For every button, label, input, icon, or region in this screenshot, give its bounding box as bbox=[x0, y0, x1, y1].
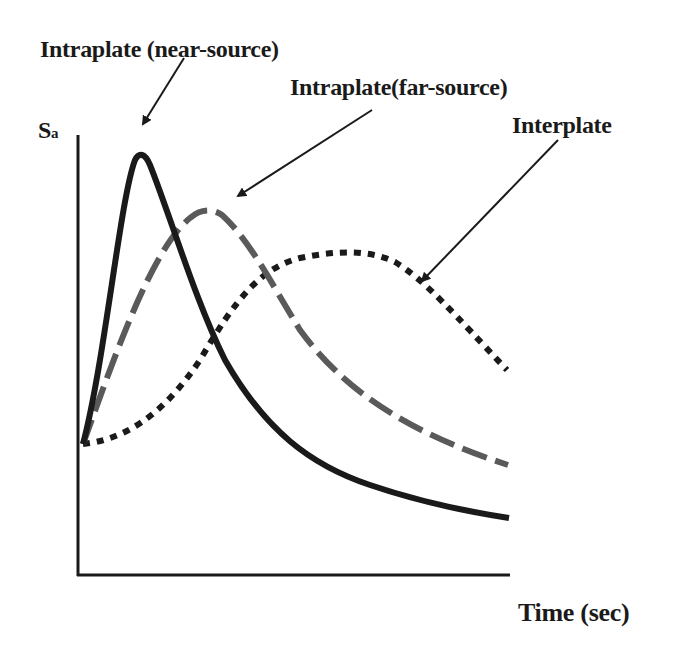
y-axis-label-subscript: a bbox=[51, 125, 58, 141]
series-intraplate-far-line bbox=[83, 210, 508, 465]
y-axis-label-main: S bbox=[38, 117, 51, 143]
series-intraplate-near-line bbox=[83, 155, 509, 518]
x-axis-label: Time (sec) bbox=[518, 598, 629, 628]
arrow-near-source bbox=[143, 58, 184, 124]
annotation-far-source: Intraplate(far-source) bbox=[290, 74, 507, 101]
annotation-interplate: Interplate bbox=[512, 112, 612, 139]
series-interplate-line bbox=[83, 252, 507, 444]
arrow-far-source bbox=[238, 110, 372, 196]
arrow-interplate bbox=[422, 140, 558, 281]
annotation-near-source: Intraplate (near-source) bbox=[40, 36, 279, 63]
y-axis-label: Sa bbox=[38, 117, 58, 144]
